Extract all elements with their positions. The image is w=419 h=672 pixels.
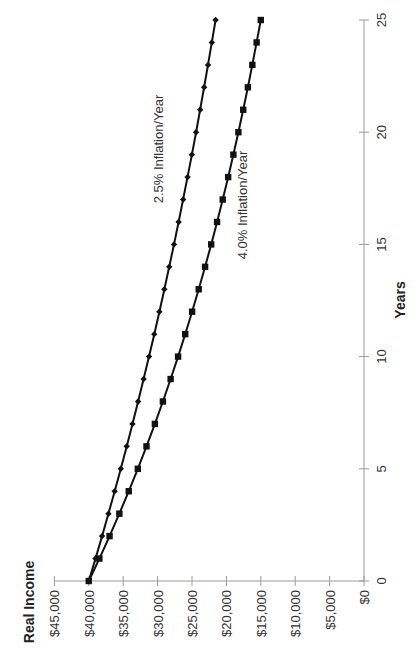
series-group: [86, 17, 264, 584]
square-marker: [135, 466, 141, 472]
square-marker: [202, 264, 208, 270]
square-marker: [196, 286, 202, 292]
series-label-4-0-percent: 4.0% Inflation/Year: [235, 150, 250, 259]
square-marker: [167, 376, 173, 382]
square-marker: [189, 309, 195, 315]
diamond-marker: [151, 331, 157, 337]
square-marker: [96, 555, 102, 561]
diamond-marker: [166, 264, 172, 270]
diamond-marker: [99, 533, 105, 539]
square-marker: [152, 421, 158, 427]
square-marker: [249, 62, 255, 68]
square-marker: [106, 533, 112, 539]
series-line: [89, 20, 261, 581]
diamond-marker: [118, 466, 124, 472]
square-marker: [240, 107, 246, 113]
diamond-marker: [205, 62, 211, 68]
diamond-marker: [209, 39, 215, 45]
diamond-marker: [156, 309, 162, 315]
diamond-marker: [111, 488, 117, 494]
value-axis-ticks: $45,000$40,000$35,000$30,000$25,000$20,0…: [47, 576, 372, 637]
diamond-marker: [193, 129, 199, 135]
diamond-marker: [175, 219, 181, 225]
value-tick-label: $10,000: [288, 590, 303, 637]
square-marker: [253, 39, 259, 45]
year-tick-label: 25: [374, 13, 389, 27]
diamond-marker: [140, 376, 146, 382]
diamond-marker: [180, 196, 186, 202]
square-marker: [220, 196, 226, 202]
value-tick-label: $15,000: [254, 590, 269, 637]
square-marker: [116, 510, 122, 516]
value-tick-label: $20,000: [219, 590, 234, 637]
series-label-2-5-percent: 2.5% Inflation/Year: [151, 94, 166, 203]
square-marker: [214, 219, 220, 225]
value-tick-label: $25,000: [185, 590, 200, 637]
diamond-marker: [201, 84, 207, 90]
diamond-marker: [197, 107, 203, 113]
square-marker: [160, 398, 166, 404]
value-tick-label: $35,000: [116, 590, 131, 637]
diamond-marker: [129, 421, 135, 427]
year-tick-label: 0: [374, 577, 389, 584]
diamond-marker: [184, 174, 190, 180]
y-axis-title: Real Income: [21, 561, 37, 644]
value-tick-label: $45,000: [47, 590, 62, 637]
diamond-marker: [135, 398, 141, 404]
value-tick-label: $40,000: [82, 590, 97, 637]
diamond-marker: [123, 443, 129, 449]
square-marker: [225, 174, 231, 180]
inflation-real-income-chart: $45,000$40,000$35,000$30,000$25,000$20,0…: [0, 0, 419, 672]
square-marker: [258, 17, 264, 23]
square-marker: [208, 241, 214, 247]
square-marker: [126, 488, 132, 494]
square-marker: [143, 443, 149, 449]
year-tick-label: 10: [374, 349, 389, 363]
diamond-marker: [212, 17, 218, 23]
year-tick-label: 20: [374, 125, 389, 139]
diamond-marker: [171, 241, 177, 247]
value-tick-label: $5,000: [323, 590, 338, 630]
square-marker: [245, 84, 251, 90]
diamond-marker: [146, 353, 152, 359]
square-marker: [86, 578, 92, 584]
value-tick-label: $30,000: [151, 590, 166, 637]
square-marker: [182, 331, 188, 337]
diamond-marker: [189, 151, 195, 157]
year-tick-label: 15: [374, 237, 389, 251]
diamond-marker: [161, 286, 167, 292]
square-marker: [175, 353, 181, 359]
x-axis-title: Years: [392, 281, 408, 319]
diamond-marker: [105, 510, 111, 516]
value-tick-label: $0: [357, 590, 372, 604]
square-marker: [235, 129, 241, 135]
year-tick-label: 5: [374, 465, 389, 472]
